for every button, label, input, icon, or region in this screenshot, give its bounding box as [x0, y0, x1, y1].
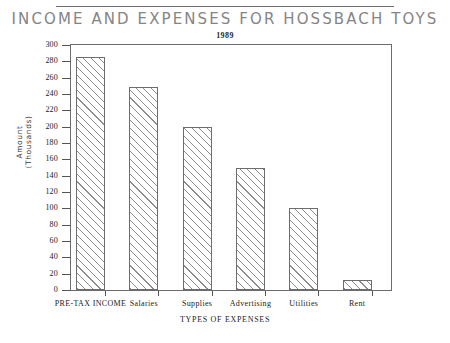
- y-axis-tick: [62, 274, 70, 275]
- x-axis-title: TYPES OF EXPENSES: [0, 315, 450, 324]
- y-axis-tick-label: 0: [0, 285, 58, 294]
- y-axis-tick: [62, 257, 70, 258]
- x-axis-category-label: Rent: [297, 299, 417, 308]
- bar: [289, 208, 318, 290]
- y-axis-tick-label: 180: [0, 138, 58, 147]
- y-axis-tick-label: 160: [0, 154, 58, 163]
- y-axis-tick-label: 220: [0, 105, 58, 114]
- header-divider: [56, 6, 394, 7]
- y-axis-tick-label: 200: [0, 122, 58, 131]
- y-axis-tick: [62, 241, 70, 242]
- y-axis-tick: [62, 208, 70, 209]
- y-axis-tick-label: 100: [0, 203, 58, 212]
- bar: [183, 127, 212, 290]
- y-axis-tick: [62, 159, 70, 160]
- y-axis-tick-label: 120: [0, 187, 58, 196]
- x-axis-tick: [212, 291, 213, 296]
- y-axis-tick: [62, 290, 70, 291]
- chart-title: INCOME AND EXPENSES FOR HOSSBACH TOYS: [0, 10, 450, 28]
- y-axis-tick-label: 300: [0, 40, 58, 49]
- bar: [236, 168, 265, 290]
- y-axis-tick-label: 260: [0, 73, 58, 82]
- y-axis-tick-label: 80: [0, 220, 58, 229]
- bars-layer: [71, 45, 391, 290]
- y-axis-tick: [62, 225, 70, 226]
- y-axis-tick: [62, 45, 70, 46]
- bar: [343, 280, 372, 290]
- y-axis-tick: [62, 94, 70, 95]
- y-axis-tick: [62, 127, 70, 128]
- x-axis-tick: [318, 291, 319, 296]
- chart-subtitle: 1989: [0, 31, 450, 40]
- y-axis-tick-label: 60: [0, 236, 58, 245]
- x-axis-tick: [105, 291, 106, 296]
- y-axis-tick-label: 280: [0, 56, 58, 65]
- bar-chart: INCOME AND EXPENSES FOR HOSSBACH TOYS 19…: [0, 0, 450, 343]
- y-axis-tick: [62, 110, 70, 111]
- y-axis-tick: [62, 176, 70, 177]
- bar: [129, 87, 158, 290]
- y-axis-tick-label: 240: [0, 89, 58, 98]
- x-axis-tick: [158, 291, 159, 296]
- y-axis-tick-label: 20: [0, 269, 58, 278]
- y-axis-tick: [62, 192, 70, 193]
- y-axis-tick: [62, 143, 70, 144]
- y-axis-tick: [62, 78, 70, 79]
- y-axis-tick-label: 40: [0, 252, 58, 261]
- x-axis-tick: [372, 291, 373, 296]
- y-axis-tick-label: 140: [0, 171, 58, 180]
- y-axis-tick: [62, 61, 70, 62]
- x-axis-tick: [265, 291, 266, 296]
- bar: [76, 57, 105, 290]
